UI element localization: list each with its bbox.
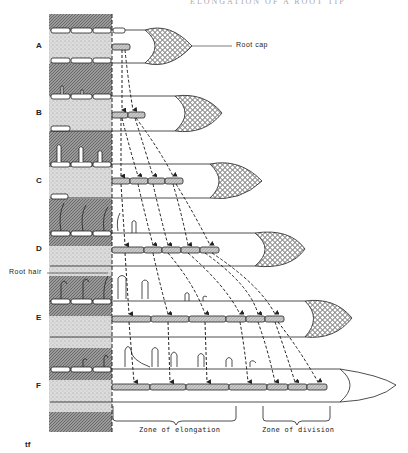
zone-of-elongation-label: Zone of elongation bbox=[139, 426, 220, 434]
row-label-a: A bbox=[36, 41, 42, 50]
row-label-b: B bbox=[36, 108, 42, 117]
zone-braces bbox=[113, 406, 330, 425]
artist-mark: tf bbox=[25, 440, 30, 449]
zone-of-division-label: Zone of division bbox=[262, 426, 334, 434]
root-hair-label: Root hair bbox=[9, 268, 42, 275]
row-label-c: C bbox=[36, 176, 42, 185]
root-growth-diagram bbox=[0, 0, 408, 453]
row-label-e: E bbox=[36, 313, 41, 322]
row-label-f: F bbox=[36, 381, 41, 390]
row-label-d: D bbox=[36, 244, 42, 253]
cell-trace-arrows bbox=[121, 50, 318, 382]
root-cap-label: Root cap bbox=[236, 41, 268, 48]
